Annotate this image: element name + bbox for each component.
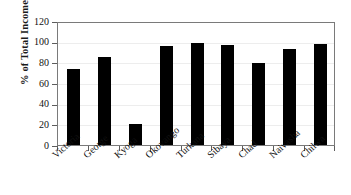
y-tick-label: 20 <box>9 119 49 130</box>
x-axis-labels: VictoriaGeorgeKyogaOkovangoTurkanaSibaya… <box>0 150 351 195</box>
y-tick-label: 40 <box>9 98 49 109</box>
y-tick-label: 80 <box>9 57 49 68</box>
bar-chad <box>252 63 265 145</box>
y-tick-label: 120 <box>9 16 49 27</box>
y-tick-label: 60 <box>9 78 49 89</box>
bar-sibaya <box>221 45 234 145</box>
bar-george <box>98 57 111 145</box>
y-tick-label: 0 <box>9 140 49 151</box>
bar-chart-figure: % of Total Income 020406080100120 Victor… <box>0 0 351 195</box>
bar-chilwa <box>314 44 327 145</box>
y-tick-label: 100 <box>9 36 49 47</box>
